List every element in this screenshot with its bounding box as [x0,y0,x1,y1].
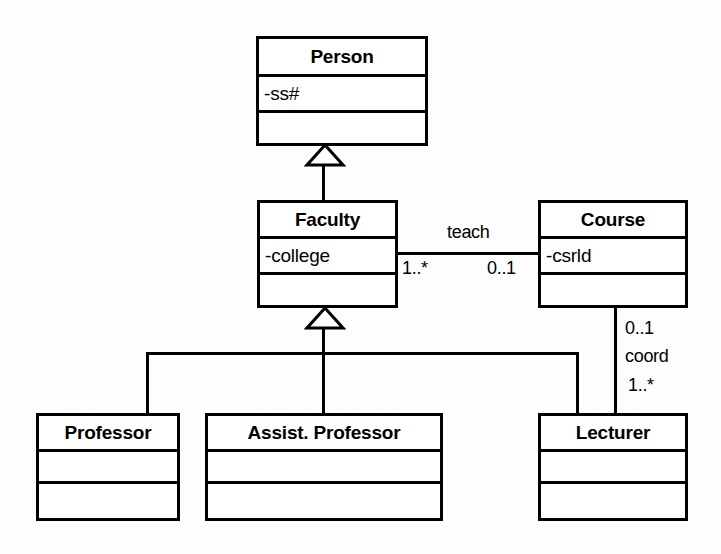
generalization-line-faculty-person [322,164,325,201]
multiplicity-course-coord: 0..1 [625,318,654,339]
class-box-lecturer[interactable]: Lecturer [538,413,688,521]
multiplicity-course-teach: 0..1 [487,258,516,279]
class-box-course[interactable]: Course -csrld [538,200,688,308]
class-name-lecturer: Lecturer [541,416,685,452]
class-attributes-professor [39,452,177,484]
class-operations-course [541,275,685,305]
association-label-teach: teach [447,222,490,243]
uml-class-diagram-canvas: teach 1..* 0..1 0..1 coord 1..* Person -… [0,0,721,554]
class-box-faculty[interactable]: Faculty -college [257,200,398,308]
class-operations-person [259,113,425,143]
class-attributes-assist-professor [208,452,440,484]
class-attributes-lecturer [541,452,685,484]
class-attributes-course: -csrld [541,239,685,275]
class-operations-faculty [260,275,395,305]
class-name-assist-professor: Assist. Professor [208,416,440,452]
generalization-arrow-subclasses-faculty [304,306,346,330]
class-box-professor[interactable]: Professor [36,413,180,521]
class-operations-lecturer [541,484,685,518]
association-line-teach [396,252,540,255]
class-name-professor: Professor [39,416,177,452]
generalization-arrow-faculty-person [304,143,346,167]
class-box-assist-professor[interactable]: Assist. Professor [205,413,443,521]
class-operations-professor [39,484,177,518]
class-name-course: Course [541,203,685,239]
association-line-coord [614,306,617,416]
class-attributes-faculty: -college [260,239,395,275]
multiplicity-lecturer-coord: 1..* [628,375,654,396]
generalization-branch-professor [146,352,149,414]
class-name-faculty: Faculty [260,203,395,239]
generalization-stem-faculty-subclasses [322,327,325,415]
association-label-coord: coord [625,346,669,367]
class-name-person: Person [259,39,425,77]
generalization-branch-lecturer [576,352,579,414]
class-operations-assist-professor [208,484,440,518]
generalization-bus-horizontal [146,352,579,355]
multiplicity-faculty-teach: 1..* [402,258,428,279]
class-attributes-person: -ss# [259,77,425,113]
class-box-person[interactable]: Person -ss# [256,36,428,146]
